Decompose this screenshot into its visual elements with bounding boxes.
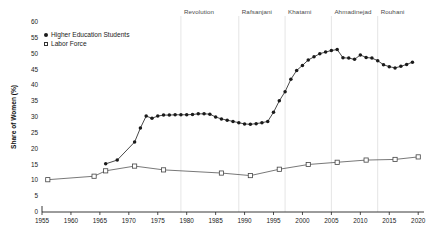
series-line-0 bbox=[106, 50, 413, 164]
data-point bbox=[335, 160, 339, 164]
data-point bbox=[150, 117, 154, 121]
data-point bbox=[359, 53, 363, 57]
data-point bbox=[370, 56, 374, 60]
data-point bbox=[173, 113, 177, 117]
data-point bbox=[306, 58, 310, 62]
data-point bbox=[214, 115, 218, 119]
data-point bbox=[92, 174, 96, 178]
data-point bbox=[393, 157, 397, 161]
data-point bbox=[266, 120, 270, 124]
series-line-1 bbox=[48, 157, 418, 180]
data-point bbox=[219, 171, 223, 175]
data-point bbox=[324, 50, 328, 54]
data-point bbox=[364, 56, 368, 60]
data-point bbox=[191, 113, 195, 117]
data-point bbox=[335, 48, 339, 52]
data-point bbox=[243, 122, 247, 126]
data-point bbox=[225, 118, 229, 122]
data-point bbox=[295, 69, 299, 73]
data-point bbox=[353, 58, 357, 62]
data-point bbox=[248, 173, 252, 177]
data-point bbox=[301, 64, 305, 68]
data-point bbox=[220, 117, 224, 121]
data-point bbox=[272, 111, 276, 115]
data-point bbox=[179, 113, 183, 117]
data-point bbox=[289, 78, 293, 82]
data-point bbox=[382, 63, 386, 67]
data-point bbox=[249, 123, 253, 127]
data-point bbox=[312, 55, 316, 59]
data-point bbox=[104, 169, 108, 173]
data-point bbox=[411, 60, 415, 64]
chart-container: Share of Women (%) RevolutionRafsanjaniK… bbox=[0, 0, 432, 247]
data-point bbox=[278, 99, 282, 103]
plot-area bbox=[0, 0, 432, 247]
data-point bbox=[306, 162, 310, 166]
data-point bbox=[185, 113, 189, 117]
data-point bbox=[254, 122, 258, 126]
data-point bbox=[144, 114, 148, 118]
data-point bbox=[330, 49, 334, 53]
data-point bbox=[168, 113, 172, 117]
data-point bbox=[399, 65, 403, 69]
data-point bbox=[364, 158, 368, 162]
data-point bbox=[388, 65, 392, 69]
data-point bbox=[162, 113, 166, 117]
data-point bbox=[197, 112, 201, 116]
data-point bbox=[46, 178, 50, 182]
data-point bbox=[104, 162, 108, 166]
data-point bbox=[202, 112, 206, 116]
data-point bbox=[237, 121, 241, 125]
data-point bbox=[231, 120, 235, 124]
data-point bbox=[405, 63, 409, 67]
data-point bbox=[341, 56, 345, 60]
data-point bbox=[277, 167, 281, 171]
data-point bbox=[161, 168, 165, 172]
data-point bbox=[133, 164, 137, 168]
data-point bbox=[156, 114, 160, 118]
data-point bbox=[115, 158, 119, 162]
data-point bbox=[133, 140, 137, 144]
data-point bbox=[393, 66, 397, 70]
data-point bbox=[376, 59, 380, 63]
data-point bbox=[208, 112, 212, 116]
data-point bbox=[283, 90, 287, 94]
data-point bbox=[416, 155, 420, 159]
data-point bbox=[260, 121, 264, 125]
data-point bbox=[318, 52, 322, 56]
data-point bbox=[139, 126, 143, 130]
data-point bbox=[347, 56, 351, 60]
